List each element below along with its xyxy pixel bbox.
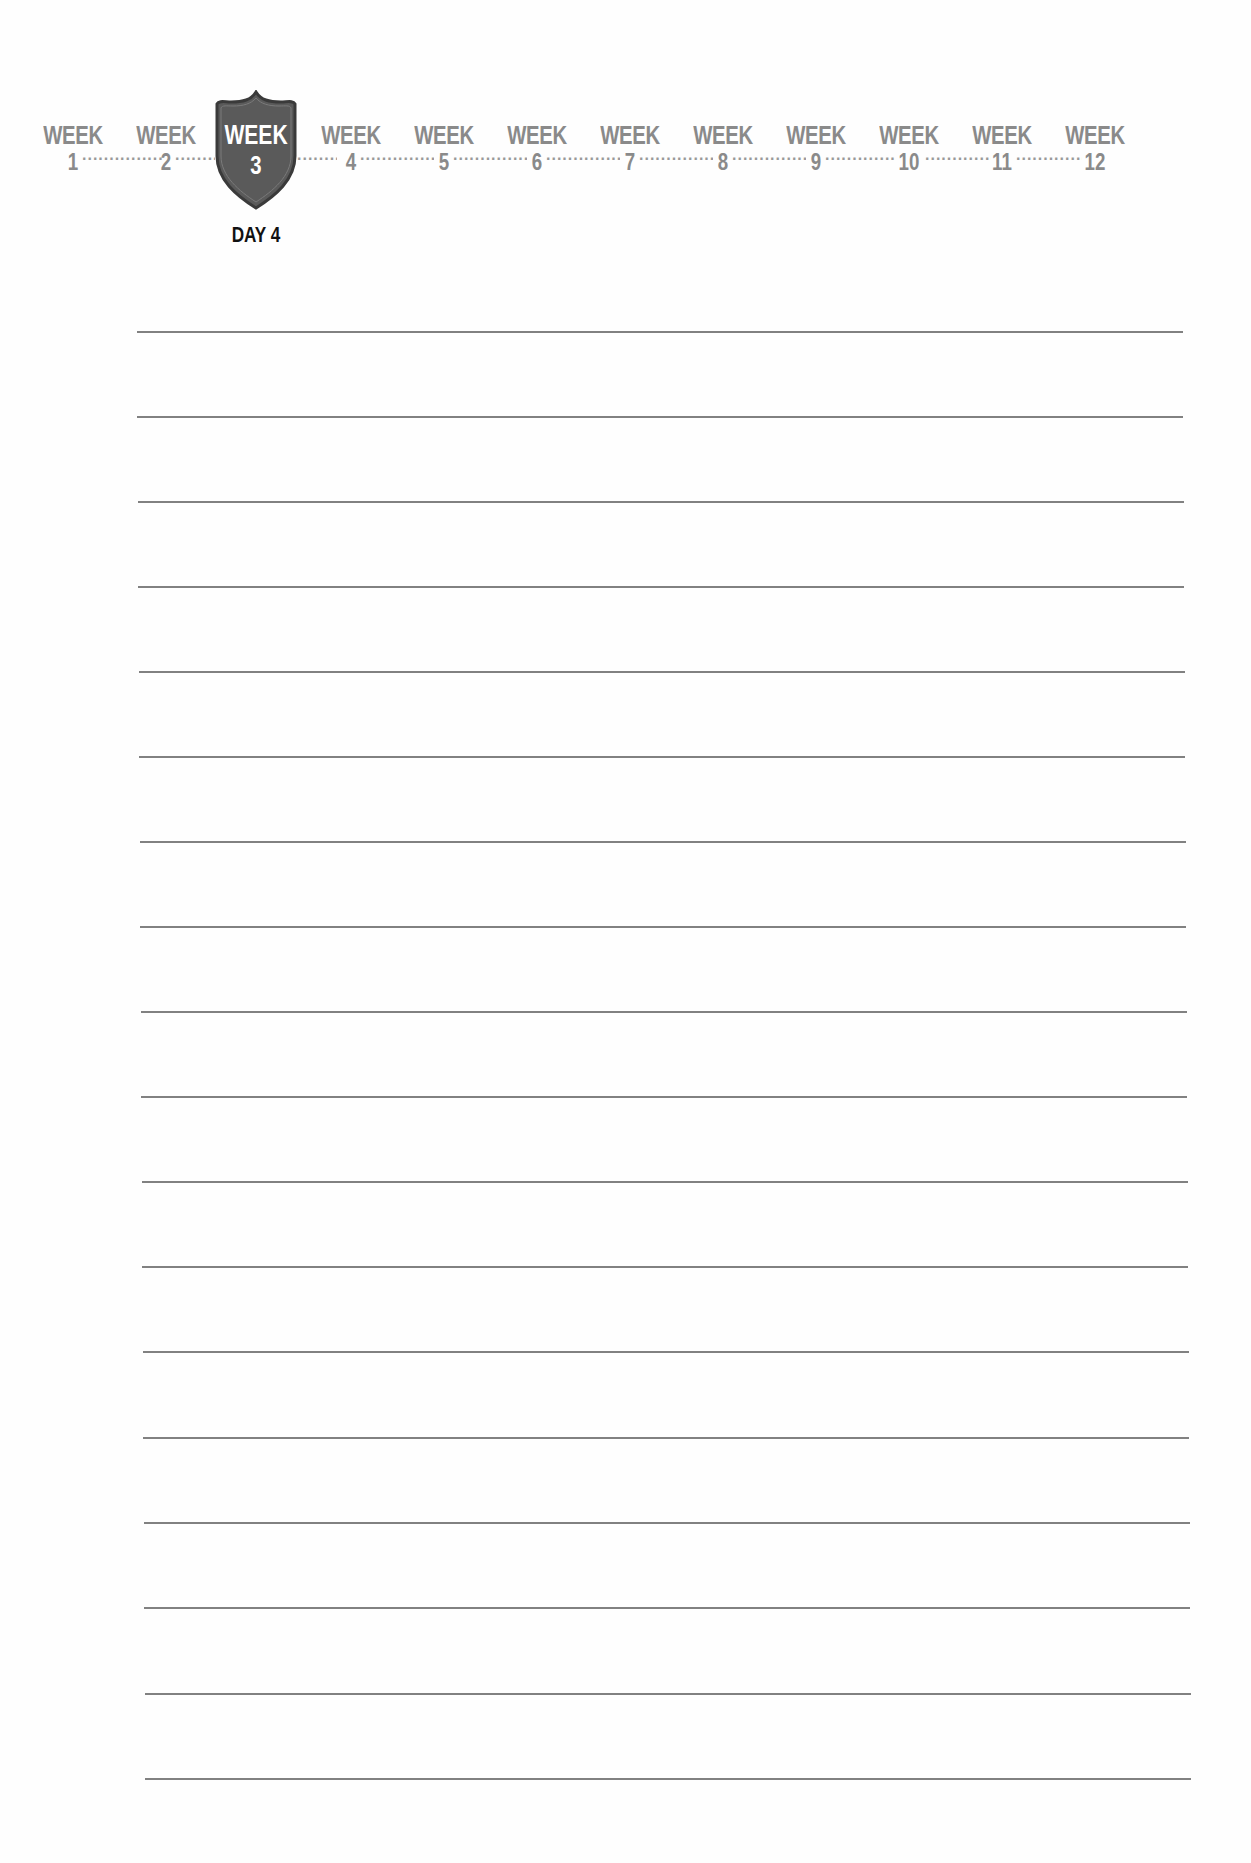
ruled-line	[139, 671, 1185, 673]
ruled-line	[144, 1522, 1190, 1524]
ruled-writing-area[interactable]	[0, 0, 1251, 1863]
ruled-line	[142, 1181, 1188, 1183]
ruled-line	[137, 331, 1183, 333]
ruled-line	[144, 1607, 1190, 1609]
ruled-line	[140, 841, 1186, 843]
ruled-line	[139, 756, 1185, 758]
ruled-line	[141, 1011, 1187, 1013]
journal-page: WEEK 1 .......................... WEEK 2…	[0, 0, 1251, 1863]
ruled-line	[145, 1693, 1191, 1695]
ruled-line	[140, 926, 1186, 928]
ruled-line	[143, 1351, 1189, 1353]
ruled-line	[143, 1437, 1189, 1439]
ruled-line	[141, 1096, 1187, 1098]
ruled-line	[138, 501, 1184, 503]
ruled-line	[145, 1778, 1191, 1780]
ruled-line	[138, 586, 1184, 588]
ruled-line	[142, 1266, 1188, 1268]
ruled-line	[137, 416, 1183, 418]
